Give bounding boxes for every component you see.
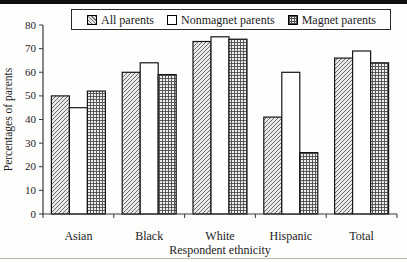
y-tick-label-50: 50 xyxy=(25,89,37,101)
bar-all-parents-hispanic xyxy=(264,117,282,214)
y-tick-label-70: 70 xyxy=(25,42,37,54)
all-parents-swatch-icon xyxy=(87,15,97,25)
x-category-label-hispanic: Hispanic xyxy=(269,229,312,243)
legend-item-nonmagnet-parents: Nonmagnet parents xyxy=(167,14,275,26)
bar-all-parents-asian xyxy=(51,96,69,214)
y-tick-label-40: 40 xyxy=(25,113,37,125)
y-tick-label-0: 0 xyxy=(31,208,37,220)
bar-magnet-parents-asian xyxy=(87,91,105,214)
figure: 01020304050607080AsianBlackWhiteHispanic… xyxy=(0,0,407,262)
legend-label-all-parents: All parents xyxy=(101,14,154,26)
bar-magnet-parents-white xyxy=(229,39,247,214)
legend-label-nonmagnet-parents: Nonmagnet parents xyxy=(181,14,275,26)
y-tick-label-80: 80 xyxy=(25,19,37,31)
bar-nonmagnet-parents-black xyxy=(140,63,158,214)
bar-nonmagnet-parents-total xyxy=(353,51,371,214)
x-axis-title: Respondent ethnicity xyxy=(169,243,271,257)
bottom-rule-divider xyxy=(0,258,407,259)
bar-all-parents-white xyxy=(193,42,211,215)
bar-nonmagnet-parents-white xyxy=(211,37,229,214)
y-tick-label-20: 20 xyxy=(25,160,37,172)
x-category-label-asian: Asian xyxy=(64,229,92,243)
x-category-label-total: Total xyxy=(349,229,374,243)
bar-all-parents-total xyxy=(335,58,353,214)
legend: All parents Nonmagnet parents Magnet par… xyxy=(71,9,391,30)
bar-chart: 01020304050607080AsianBlackWhiteHispanic… xyxy=(0,0,407,262)
x-category-label-black: Black xyxy=(135,229,163,243)
bar-all-parents-black xyxy=(122,72,140,214)
legend-item-all-parents: All parents xyxy=(87,14,154,26)
legend-item-magnet-parents: Magnet parents xyxy=(288,14,376,26)
y-tick-label-60: 60 xyxy=(25,66,37,78)
magnet-parents-swatch-icon xyxy=(288,15,298,25)
nonmagnet-parents-swatch-icon xyxy=(167,15,177,25)
y-tick-label-30: 30 xyxy=(25,137,37,149)
y-axis-title: Percentages of parents xyxy=(2,67,15,171)
bar-magnet-parents-black xyxy=(158,75,176,214)
bar-nonmagnet-parents-asian xyxy=(69,108,87,214)
bar-magnet-parents-total xyxy=(371,63,389,214)
x-category-label-white: White xyxy=(205,229,234,243)
bar-magnet-parents-hispanic xyxy=(300,153,318,214)
bar-nonmagnet-parents-hispanic xyxy=(282,72,300,214)
y-tick-label-10: 10 xyxy=(25,184,37,196)
legend-label-magnet-parents: Magnet parents xyxy=(302,14,376,26)
